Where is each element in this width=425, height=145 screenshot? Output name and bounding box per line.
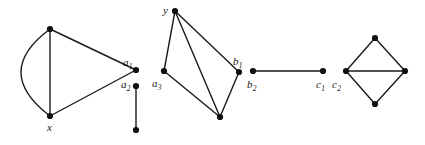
graph-canvas bbox=[0, 0, 425, 145]
label-a2-base: a bbox=[121, 78, 127, 90]
label-a2: a2 bbox=[121, 79, 130, 90]
label-c1: c1 bbox=[316, 79, 325, 90]
graph-vertex bbox=[161, 68, 167, 74]
graph-vertex bbox=[402, 68, 408, 74]
graph-vertex bbox=[133, 83, 139, 89]
graph-edge-curved bbox=[21, 29, 50, 116]
label-a3-base: a bbox=[152, 77, 158, 89]
label-a3-subscript: 3 bbox=[158, 83, 162, 92]
graph-vertex bbox=[217, 114, 223, 120]
label-a1: a1 bbox=[123, 57, 132, 68]
graph-edge bbox=[175, 11, 239, 72]
graph-vertex bbox=[47, 26, 53, 32]
label-b2-base: b bbox=[247, 78, 253, 90]
graph-edge bbox=[50, 70, 136, 116]
label-y: y bbox=[163, 5, 168, 16]
label-a1-subscript: 1 bbox=[129, 62, 133, 71]
label-c2-subscript: 2 bbox=[337, 84, 341, 93]
graph-edge bbox=[375, 71, 405, 104]
graph-vertex bbox=[172, 8, 178, 14]
graph-edge bbox=[164, 71, 220, 117]
graph-vertex bbox=[133, 67, 139, 73]
graph-vertex bbox=[372, 101, 378, 107]
graph-vertex bbox=[320, 68, 326, 74]
label-a1-base: a bbox=[123, 56, 129, 68]
graph-edge bbox=[220, 72, 239, 117]
label-c2: c2 bbox=[332, 79, 341, 90]
graph-edge bbox=[346, 38, 375, 71]
graph-vertex bbox=[250, 68, 256, 74]
graph-figure: a1a2xya3b1b2c1c2 bbox=[0, 0, 425, 145]
graph-vertex bbox=[343, 68, 349, 74]
graph-edge bbox=[346, 71, 375, 104]
label-b1-subscript: 1 bbox=[239, 61, 243, 70]
label-x: x bbox=[47, 122, 52, 133]
graph-vertex bbox=[133, 127, 139, 133]
graph-edge bbox=[164, 11, 175, 71]
label-b1: b1 bbox=[233, 56, 242, 67]
graph-edge bbox=[175, 11, 220, 117]
graph-vertex bbox=[47, 113, 53, 119]
label-x-base: x bbox=[47, 121, 52, 133]
label-b2: b2 bbox=[247, 79, 256, 90]
graph-edge bbox=[375, 38, 405, 71]
label-c1-subscript: 1 bbox=[321, 84, 325, 93]
label-a3: a3 bbox=[152, 78, 161, 89]
label-b1-base: b bbox=[233, 55, 239, 67]
graph-vertex bbox=[372, 35, 378, 41]
label-y-base: y bbox=[163, 4, 168, 16]
label-a2-subscript: 2 bbox=[127, 84, 131, 93]
label-b2-subscript: 2 bbox=[253, 84, 257, 93]
